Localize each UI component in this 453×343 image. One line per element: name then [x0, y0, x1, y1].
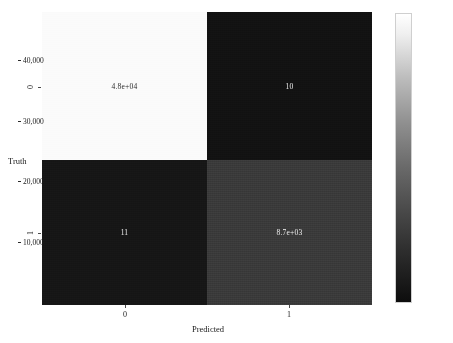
colorbar[interactable] [395, 13, 412, 303]
heatmap-cell-truth0-pred1[interactable]: 10 [207, 12, 372, 160]
heatmap-cell-value: 8.7e+03 [277, 228, 303, 237]
colorbar-tick-label: 10,000 [23, 238, 44, 247]
x-tick-mark-1 [289, 305, 290, 308]
confusion-matrix-figure: 4.8e+04 10 11 8.7e+03 0 1 Predicted 0 1 … [0, 0, 453, 343]
x-tick-label-0: 0 [123, 310, 127, 319]
colorbar-tick-30000: 30,000 [18, 117, 44, 126]
heatmap-cell-value: 4.8e+04 [112, 82, 138, 91]
heatmap-grid: 4.8e+04 10 11 8.7e+03 [42, 12, 372, 305]
y-tick-mark-1 [38, 233, 41, 234]
colorbar-tick-label: 40,000 [23, 56, 44, 65]
colorbar-tick-mark [18, 121, 21, 122]
colorbar-tick-mark [18, 242, 21, 243]
x-axis-label: Predicted [192, 324, 224, 334]
heatmap-cell-truth0-pred0[interactable]: 4.8e+04 [42, 12, 207, 160]
y-tick-mark-0 [38, 87, 41, 88]
colorbar-tick-mark [18, 181, 21, 182]
x-tick-label-1: 1 [287, 310, 291, 319]
colorbar-tick-10000: 10,000 [18, 238, 44, 247]
y-axis-label: Truth [8, 156, 27, 166]
heatmap-cell-truth1-pred1[interactable]: 8.7e+03 [207, 160, 372, 305]
y-tick-label-1: 1 [26, 231, 35, 235]
heatmap-cell-value: 10 [286, 82, 294, 91]
colorbar-tick-label: 20,000 [23, 177, 44, 186]
heatmap-cell-truth1-pred0[interactable]: 11 [42, 160, 207, 305]
colorbar-tick-mark [18, 60, 21, 61]
x-tick-mark-0 [125, 305, 126, 308]
colorbar-tick-label: 30,000 [23, 117, 44, 126]
y-tick-label-0: 0 [26, 85, 35, 89]
colorbar-gradient [396, 14, 411, 302]
colorbar-tick-20000: 20,000 [18, 177, 44, 186]
heatmap-cell-value: 11 [121, 228, 129, 237]
colorbar-tick-40000: 40,000 [18, 56, 44, 65]
